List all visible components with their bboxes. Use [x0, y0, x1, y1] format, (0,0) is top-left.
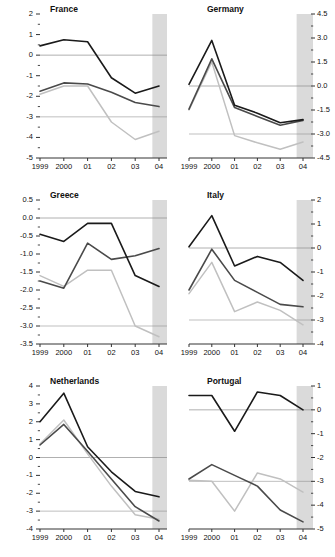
panel-italy: Italy210-1-2-3-41999200001020304	[167, 186, 335, 372]
y-axis-tick-label: -2	[0, 489, 33, 497]
x-axis-tick-label: 1999	[27, 163, 53, 171]
panel-greece: Greece0.50.0-0.5-1.0-1.5-2.0-2.5-3.0-3.5…	[0, 186, 167, 372]
small-multiples-figure: France210-1-2-3-4-51999200001020304 Germ…	[0, 0, 335, 557]
plot-area-italy	[167, 186, 335, 372]
x-axis-tick-label: 1999	[27, 349, 53, 357]
y-axis-tick-label: 0	[0, 51, 33, 59]
y-axis-tick-label: -2	[0, 92, 33, 100]
x-axis-tick-label: 1999	[27, 534, 53, 542]
y-axis-tick-label: -3	[0, 113, 33, 121]
x-axis-tick-label: 02	[98, 534, 124, 542]
y-axis-tick-label: 1	[317, 220, 321, 228]
plot-area-portugal	[167, 372, 335, 557]
series-line-series-3-light	[189, 473, 303, 511]
x-axis-tick-label: 01	[75, 534, 101, 542]
x-axis-tick-label: 02	[98, 163, 124, 171]
y-axis-tick-label: -1.0	[0, 250, 33, 258]
y-axis-tick-label: -3	[317, 477, 324, 485]
panel-title: Italy	[207, 190, 224, 200]
plot-wrap	[167, 0, 335, 186]
series-line-series-2-dark	[40, 424, 159, 521]
y-axis-tick-label: 1	[317, 382, 321, 390]
x-axis-tick-label: 01	[75, 349, 101, 357]
y-axis-tick-label: -3	[317, 316, 324, 324]
y-axis-tick-label: 2	[0, 418, 33, 426]
plot-area-germany	[167, 0, 335, 186]
y-axis-tick-label: 0.5	[0, 196, 33, 204]
panel-grid: France210-1-2-3-4-51999200001020304 Germ…	[0, 0, 335, 557]
y-axis-tick-label: -0.5	[0, 232, 33, 240]
y-axis-tick-label: -3.5	[0, 340, 33, 348]
x-axis-tick-label: 04	[290, 534, 316, 542]
plot-wrap	[167, 372, 335, 557]
x-axis-tick-label: 2000	[51, 534, 77, 542]
x-axis-tick-label: 03	[122, 163, 148, 171]
y-axis-tick-label: -1	[317, 268, 324, 276]
series-line-series-2-dark	[40, 243, 159, 288]
y-axis-tick-label: -1	[0, 72, 33, 80]
y-axis-tick-label: -1	[0, 471, 33, 479]
y-axis-tick-label: -5	[0, 154, 33, 162]
y-axis-tick-label: 0	[317, 406, 321, 414]
panel-title: Germany	[207, 4, 244, 14]
panel-germany: Germany4.53.01.50.0-1.5-3.0-4.5199920000…	[167, 0, 335, 186]
y-axis-tick-label: 0.0	[317, 82, 327, 90]
y-axis-tick-label: 3	[0, 400, 33, 408]
series-line-series-1-dark	[40, 223, 159, 286]
series-line-series-2-dark	[189, 59, 303, 125]
panel-france: France210-1-2-3-4-51999200001020304	[0, 0, 167, 186]
forecast-shaded-band	[152, 200, 167, 344]
panel-title: Portugal	[207, 376, 241, 386]
x-axis-tick-label: 2000	[51, 163, 77, 171]
y-axis-tick-label: -3	[0, 507, 33, 515]
series-line-series-3-light	[40, 86, 159, 139]
series-line-series-3-light	[40, 270, 159, 337]
panel-title: Greece	[50, 190, 79, 200]
y-axis-tick-label: -1.5	[317, 106, 330, 114]
y-axis-tick-label: -4	[0, 525, 33, 533]
series-line-series-3-light	[189, 262, 303, 324]
y-axis-tick-label: -4	[317, 340, 324, 348]
y-axis-tick-label: -2.0	[0, 286, 33, 294]
series-line-series-2-dark	[189, 249, 303, 307]
panel-netherlands: Netherlands43210-1-2-3-41999200001020304	[0, 372, 167, 557]
y-axis-tick-label: -5	[317, 525, 324, 533]
y-axis-tick-label: -4	[0, 133, 33, 141]
y-axis-tick-label: -2	[317, 292, 324, 300]
y-axis-tick-label: -1	[317, 430, 324, 438]
y-axis-tick-label: 1	[0, 31, 33, 39]
y-axis-tick-label: 0	[0, 454, 33, 462]
y-axis-tick-label: 3.0	[317, 34, 327, 42]
y-axis-tick-label: -4.5	[317, 154, 330, 162]
y-axis-tick-label: -2	[317, 454, 324, 462]
series-line-series-1-dark	[40, 393, 159, 497]
y-axis-tick-label: 2	[317, 196, 321, 204]
y-axis-tick-label: 1.5	[317, 58, 327, 66]
x-axis-tick-label: 01	[75, 163, 101, 171]
y-axis-tick-label: 2	[0, 10, 33, 18]
series-line-series-1-dark	[189, 392, 303, 431]
y-axis-tick-label: 0	[317, 244, 321, 252]
series-line-series-1-dark	[189, 40, 303, 122]
y-axis-tick-label: -3.0	[317, 130, 330, 138]
x-axis-tick-label: 02	[98, 349, 124, 357]
y-axis-tick-label: 0.0	[0, 214, 33, 222]
plot-wrap	[167, 186, 335, 372]
y-axis-tick-label: -4	[317, 501, 324, 509]
y-axis-tick-label: -1.5	[0, 268, 33, 276]
x-axis-tick-label: 03	[122, 349, 148, 357]
series-line-series-3-light	[40, 420, 159, 519]
y-axis-tick-label: -3.0	[0, 322, 33, 330]
x-axis-tick-label: 04	[290, 163, 316, 171]
x-axis-tick-label: 03	[122, 534, 148, 542]
y-axis-tick-label: 4.5	[317, 10, 327, 18]
x-axis-tick-label: 2000	[51, 349, 77, 357]
y-axis-tick-label: 4	[0, 382, 33, 390]
y-axis-tick-label: 1	[0, 436, 33, 444]
panel-portugal: Portugal10-1-2-3-4-51999200001020304	[167, 372, 335, 557]
x-axis-tick-label: 04	[290, 349, 316, 357]
series-line-series-3-light	[189, 62, 303, 149]
panel-title: France	[50, 4, 78, 14]
y-axis-tick-label: -2.5	[0, 304, 33, 312]
panel-title: Netherlands	[50, 376, 99, 386]
